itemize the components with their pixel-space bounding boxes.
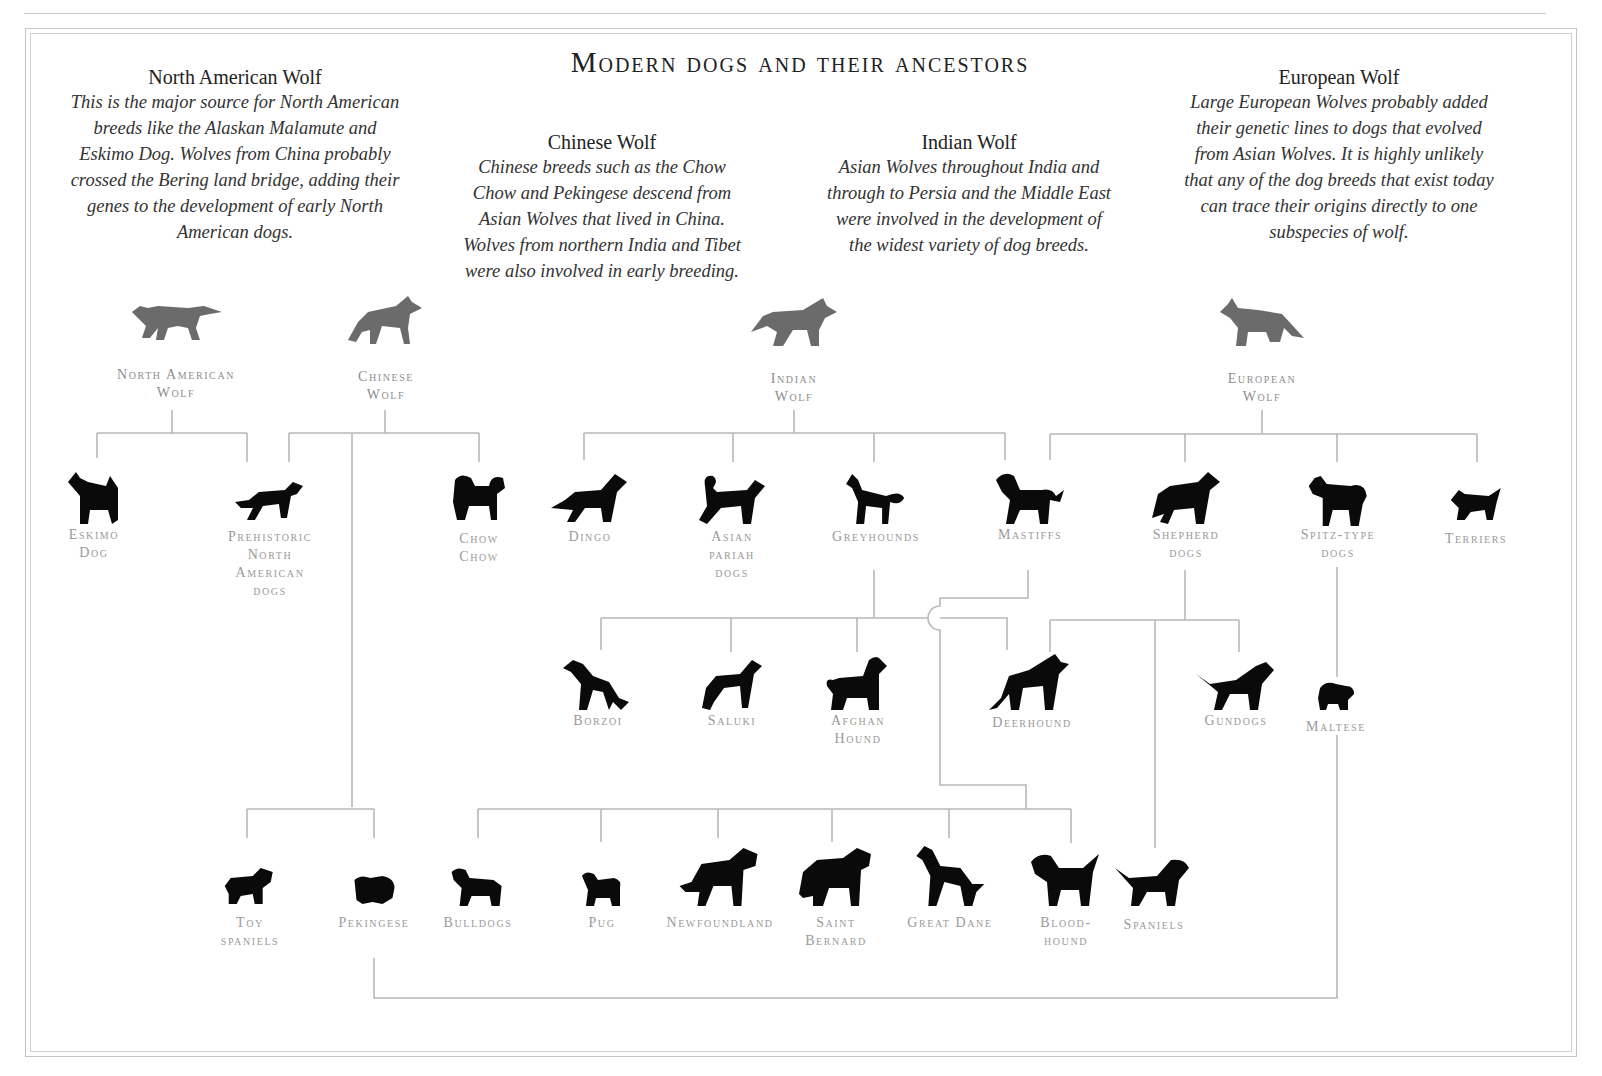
node-spitz-type-dogs[interactable]: Spitz-type dogs bbox=[1301, 474, 1376, 562]
wolf-silhouette-icon bbox=[128, 298, 224, 346]
node-gundogs[interactable]: Gundogs bbox=[1196, 660, 1276, 730]
node-label: North American Wolf bbox=[117, 366, 235, 402]
node-newfoundland[interactable]: Newfoundland bbox=[666, 848, 773, 932]
dog-silhouette-icon bbox=[697, 472, 767, 526]
node-eskimo-dog[interactable]: Eskimo Dog bbox=[66, 470, 122, 562]
node-shepherd-dogs[interactable]: Shepherd dogs bbox=[1150, 470, 1222, 562]
node-label: Shepherd dogs bbox=[1150, 526, 1222, 562]
dog-silhouette-icon bbox=[679, 848, 761, 908]
dog-silhouette-icon bbox=[451, 472, 507, 524]
node-deerhound[interactable]: Deerhound bbox=[989, 652, 1075, 732]
node-mastiffs[interactable]: Mastiffs bbox=[994, 470, 1066, 544]
node-saint-bernard[interactable]: Saint Bernard bbox=[797, 848, 875, 950]
node-label: Newfoundland bbox=[666, 914, 773, 932]
node-label: Eskimo Dog bbox=[66, 526, 122, 562]
dog-silhouette-icon bbox=[1150, 470, 1222, 526]
node-label: Chinese Wolf bbox=[346, 368, 426, 404]
node-label: Borzoi bbox=[563, 712, 633, 730]
node-indian-wolf[interactable]: Indian Wolf bbox=[749, 296, 839, 406]
node-dingo[interactable]: Dingo bbox=[551, 472, 629, 546]
dog-silhouette-icon bbox=[994, 470, 1066, 526]
node-chinese-wolf[interactable]: Chinese Wolf bbox=[346, 292, 426, 404]
node-label: Dingo bbox=[551, 528, 629, 546]
node-label: Prehistoric North American dogs bbox=[228, 528, 312, 600]
node-asian-pariah-dogs[interactable]: Asian pariah dogs bbox=[697, 472, 767, 582]
node-label: Pug bbox=[580, 914, 624, 932]
node-saluki[interactable]: Saluki bbox=[700, 658, 764, 730]
dog-silhouette-icon bbox=[1316, 680, 1356, 712]
dog-silhouette-icon bbox=[223, 866, 277, 906]
node-toy-spaniels[interactable]: Toy spaniels bbox=[221, 866, 280, 950]
dog-silhouette-icon bbox=[1115, 858, 1193, 908]
node-label: Afghan Hound bbox=[825, 712, 891, 748]
node-north-american-wolf[interactable]: North American Wolf bbox=[117, 298, 235, 402]
node-label: Spaniels bbox=[1115, 916, 1193, 934]
node-label: Greyhounds bbox=[832, 528, 920, 546]
node-maltese[interactable]: Maltese bbox=[1306, 680, 1366, 736]
dog-silhouette-icon bbox=[1449, 486, 1503, 524]
node-label: Pekingese bbox=[338, 914, 409, 932]
node-label: Mastiffs bbox=[994, 526, 1066, 544]
node-label: Bulldogs bbox=[444, 914, 513, 932]
dog-silhouette-icon bbox=[551, 472, 629, 524]
node-label: Indian Wolf bbox=[749, 370, 839, 406]
node-afghan-hound[interactable]: Afghan Hound bbox=[825, 654, 891, 748]
node-label: Gundogs bbox=[1196, 712, 1276, 730]
node-greyhounds[interactable]: Greyhounds bbox=[832, 472, 920, 546]
node-european-wolf[interactable]: European Wolf bbox=[1218, 298, 1306, 406]
node-chow-chow[interactable]: Chow Chow bbox=[451, 472, 507, 566]
node-spaniels[interactable]: Spaniels bbox=[1115, 858, 1193, 934]
dog-silhouette-icon bbox=[700, 658, 764, 712]
dog-silhouette-icon bbox=[66, 470, 122, 526]
node-bloodhound[interactable]: Blood- hound bbox=[1029, 852, 1103, 950]
dog-silhouette-icon bbox=[797, 848, 875, 908]
dog-silhouette-icon bbox=[563, 658, 633, 712]
node-label: Asian pariah dogs bbox=[697, 528, 767, 582]
dog-silhouette-icon bbox=[352, 874, 396, 906]
node-label: Terriers bbox=[1445, 530, 1507, 548]
node-pekingese[interactable]: Pekingese bbox=[338, 874, 409, 932]
node-bulldogs[interactable]: Bulldogs bbox=[444, 866, 513, 932]
dog-silhouette-icon bbox=[844, 472, 908, 526]
node-label: Spitz-type dogs bbox=[1301, 526, 1376, 562]
node-label: Great Dane bbox=[907, 914, 992, 932]
wolf-silhouette-icon bbox=[346, 292, 426, 348]
node-label: Maltese bbox=[1306, 718, 1366, 736]
node-label: Chow Chow bbox=[451, 530, 507, 566]
node-label: Saluki bbox=[700, 712, 764, 730]
dog-silhouette-icon bbox=[235, 480, 305, 524]
wolf-silhouette-icon bbox=[749, 296, 839, 350]
node-borzoi[interactable]: Borzoi bbox=[563, 658, 633, 730]
dog-silhouette-icon bbox=[580, 870, 624, 908]
dog-silhouette-icon bbox=[450, 866, 506, 908]
node-label: Blood- hound bbox=[1029, 914, 1103, 950]
dog-silhouette-icon bbox=[825, 654, 891, 712]
dog-silhouette-icon bbox=[1307, 474, 1369, 526]
node-prehistoric-north-american-dogs[interactable]: Prehistoric North American dogs bbox=[228, 480, 312, 600]
node-label: European Wolf bbox=[1218, 370, 1306, 406]
node-label: Toy spaniels bbox=[221, 914, 280, 950]
wolf-silhouette-icon bbox=[1218, 298, 1306, 350]
node-great-dane[interactable]: Great Dane bbox=[907, 846, 992, 932]
node-label: Deerhound bbox=[989, 714, 1075, 732]
node-label: Saint Bernard bbox=[797, 914, 875, 950]
dog-silhouette-icon bbox=[1196, 660, 1276, 712]
node-terriers[interactable]: Terriers bbox=[1445, 486, 1507, 548]
dog-silhouette-icon bbox=[989, 652, 1075, 712]
dog-silhouette-icon bbox=[1029, 852, 1103, 908]
node-pug[interactable]: Pug bbox=[580, 870, 624, 932]
dog-silhouette-icon bbox=[914, 846, 986, 908]
